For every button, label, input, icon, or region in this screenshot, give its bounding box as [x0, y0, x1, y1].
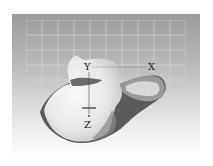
y-axis-label: Y	[84, 62, 91, 72]
z-axis-point	[88, 115, 90, 117]
bone-model	[0, 0, 213, 166]
x-axis-label: X	[148, 62, 155, 72]
z-axis-label: Z	[84, 120, 91, 130]
